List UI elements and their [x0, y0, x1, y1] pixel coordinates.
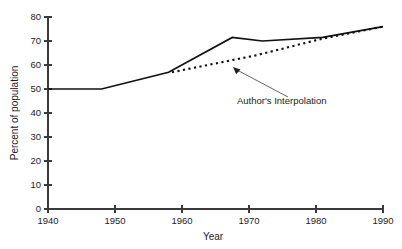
x-axis-ticks: 194019501960197019801990 — [37, 205, 393, 226]
x-tick-label: 1980 — [305, 215, 326, 226]
y-tick-label: 40 — [30, 107, 41, 118]
x-tick-label: 1990 — [372, 215, 393, 226]
y-tick-label: 50 — [30, 83, 41, 94]
annotation-arrow-head — [233, 67, 241, 74]
annotation-layer: Author's Interpolation — [233, 67, 326, 106]
x-tick-label: 1940 — [37, 215, 58, 226]
y-tick-label: 60 — [30, 59, 41, 70]
y-tick-label: 80 — [30, 11, 41, 22]
y-tick-label: 0 — [36, 203, 41, 214]
x-tick-label: 1970 — [238, 215, 259, 226]
x-tick-label: 1960 — [171, 215, 192, 226]
y-axis-title: Percent of population — [9, 66, 20, 161]
x-tick-label: 1950 — [104, 215, 125, 226]
data-series-layer — [48, 27, 383, 89]
y-tick-label: 20 — [30, 155, 41, 166]
annotation-label: Author's Interpolation — [237, 95, 326, 106]
y-tick-label: 30 — [30, 131, 41, 142]
y-tick-label: 10 — [30, 179, 41, 190]
x-axis-title: Year — [203, 231, 224, 242]
series-line-1 — [48, 27, 383, 89]
annotation-leader-line — [237, 70, 288, 97]
series-line-2 — [172, 27, 383, 73]
y-axis-ticks: 01020304050607080 — [30, 11, 52, 214]
line-chart: 01020304050607080 1940195019601970198019… — [0, 0, 402, 249]
y-tick-label: 70 — [30, 35, 41, 46]
chart-container: 01020304050607080 1940195019601970198019… — [0, 0, 402, 249]
